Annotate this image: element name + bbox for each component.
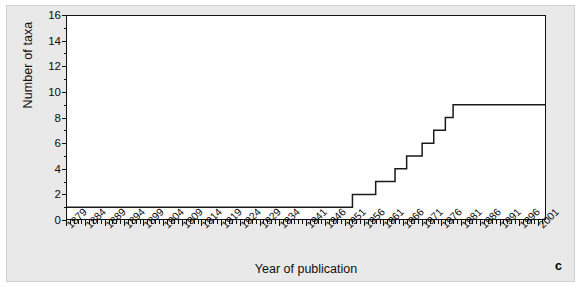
y-tick-label: 8 (35, 112, 61, 124)
y-axis-tick-labels: 0246810121416 (33, 15, 61, 220)
panel-letter: c (555, 259, 562, 273)
plot-area (66, 15, 546, 220)
x-axis-tick-labels: 1879188418891894189919041909191419191924… (66, 222, 552, 264)
step-line-chart (66, 15, 546, 220)
y-tick-label: 16 (35, 9, 61, 21)
x-axis-title: Year of publication (66, 262, 546, 276)
y-tick-label: 12 (35, 60, 61, 72)
figure-panel: Number of taxa 0246810121416 18791884188… (6, 5, 575, 282)
series-line (66, 105, 546, 208)
y-tick-label: 14 (35, 35, 61, 47)
y-tick-label: 6 (35, 137, 61, 149)
y-tick-label: 4 (35, 163, 61, 175)
y-tick-label: 10 (35, 86, 61, 98)
y-tick-label: 2 (35, 188, 61, 200)
data-series-group (66, 105, 546, 208)
y-tick-label: 0 (35, 214, 61, 226)
